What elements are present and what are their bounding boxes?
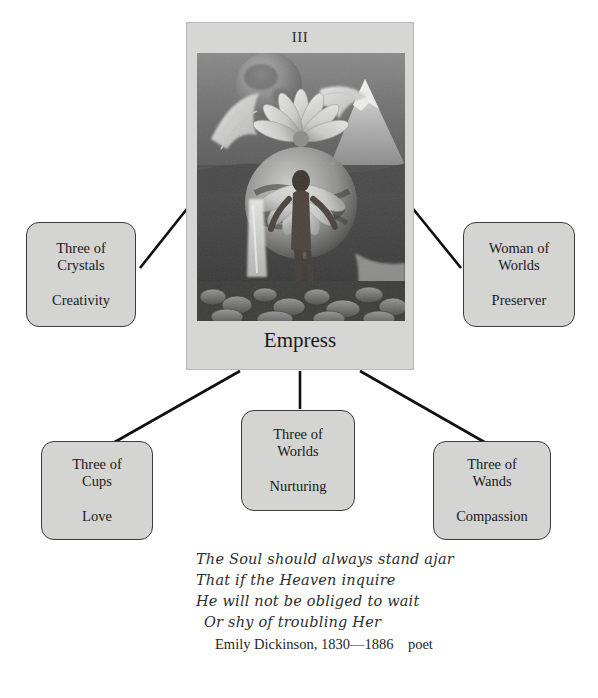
card-title: Empress bbox=[187, 328, 413, 353]
concept-box-woman-of-worlds[interactable]: Woman of Worlds Preserver bbox=[463, 222, 575, 327]
concept-box-three-of-wands[interactable]: Three of Wands Compassion bbox=[433, 441, 551, 540]
poem-line: That if the Heaven inquire bbox=[0, 570, 598, 591]
concept-box-three-of-crystals[interactable]: Three of Crystals Creativity bbox=[26, 222, 136, 327]
concept-title: Three of Wands bbox=[467, 456, 517, 490]
collage-artwork bbox=[197, 53, 405, 321]
tarot-card-empress[interactable]: III bbox=[186, 22, 414, 370]
poem-attribution: Emily Dickinson, 1830—1886 poet bbox=[0, 633, 598, 655]
connector-card-to-wands bbox=[360, 371, 486, 443]
concept-title: Three of Crystals bbox=[56, 240, 106, 274]
connector-card-to-woman-of-worlds bbox=[410, 205, 461, 268]
poem-line: Or shy of troubling Her bbox=[0, 612, 598, 633]
card-numeral: III bbox=[187, 29, 413, 46]
empress-collage-photo bbox=[197, 53, 405, 321]
poem-line: The Soul should always stand ajar bbox=[0, 549, 598, 570]
concept-subtitle: Love bbox=[82, 508, 112, 525]
concept-subtitle: Nurturing bbox=[269, 478, 326, 495]
diagram-canvas: III bbox=[0, 0, 598, 698]
poem-block: The Soul should always stand ajar That i… bbox=[0, 549, 598, 655]
connector-card-to-cups bbox=[113, 371, 240, 443]
concept-subtitle: Preserver bbox=[492, 292, 547, 309]
concept-title: Three of Worlds bbox=[273, 426, 323, 460]
poem-line: He will not be obliged to wait bbox=[0, 591, 598, 612]
concept-subtitle: Compassion bbox=[456, 508, 528, 525]
concept-box-three-of-cups[interactable]: Three of Cups Love bbox=[41, 441, 153, 540]
concept-subtitle: Creativity bbox=[52, 292, 110, 309]
concept-title: Three of Cups bbox=[72, 456, 122, 490]
concept-title: Woman of Worlds bbox=[489, 240, 549, 274]
concept-box-three-of-worlds[interactable]: Three of Worlds Nurturing bbox=[241, 410, 355, 511]
connector-card-to-crystals bbox=[140, 205, 190, 268]
